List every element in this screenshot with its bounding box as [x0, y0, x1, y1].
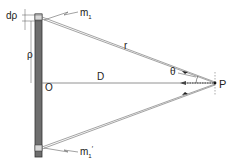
diagram-canvas	[0, 0, 232, 161]
label-r: r	[124, 41, 127, 51]
label-P: P	[219, 79, 226, 90]
upper-ray	[42, 17, 215, 82]
mass-element-bottom	[35, 145, 42, 151]
force-arrow-axis	[180, 81, 186, 85]
label-D: D	[97, 72, 104, 82]
label-O: O	[45, 83, 53, 93]
label-theta: θ	[170, 67, 176, 77]
label-m1: m1	[80, 8, 92, 20]
label-drho: dρ	[6, 11, 17, 21]
label-m1-prime: m1′	[80, 147, 93, 159]
label-rho: ρ	[27, 50, 33, 60]
lower-ray	[42, 84, 215, 147]
force-arrow-lower	[182, 92, 188, 95]
rod	[35, 14, 42, 157]
